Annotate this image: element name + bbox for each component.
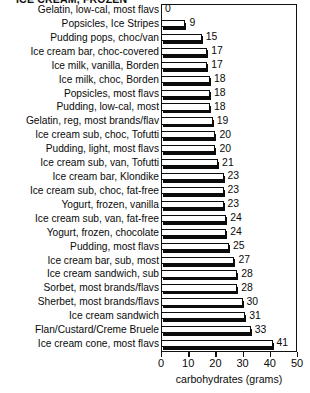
category-label: Pudding, low-cal, most (57, 101, 160, 113)
bar (161, 173, 224, 183)
category-label: Yogurt, frozen, chocolate (47, 227, 159, 239)
bar-row: Ice cream sub, choc, Tofutti20 (0, 129, 310, 143)
category-label: Popsicles, Ice Stripes (62, 18, 159, 30)
bar-value-label: 21 (222, 157, 234, 169)
bar-value-label: 20 (219, 143, 231, 155)
category-label: Ice cream sub, choc, Tofutti (35, 129, 159, 141)
bar-value-label: 27 (238, 254, 250, 266)
category-label: Gelatin, low-cal, most flavs (38, 4, 159, 16)
bar-rows-container: Gelatin, low-cal, most flavs0Popsicles, … (0, 4, 310, 352)
category-label: Ice cream bar, choc-covered (30, 46, 159, 58)
bar-value-label: 17 (211, 45, 223, 57)
x-tick-label: 40 (264, 357, 276, 370)
category-label: Sorbet, most brands/flavs (43, 282, 159, 294)
bar-body (161, 145, 215, 152)
bar-value-label: 25 (233, 240, 245, 252)
category-label: Ice milk, choc, Borden (59, 74, 159, 86)
bar-value-label: 9 (189, 17, 195, 29)
bar-row: Yogurt, frozen, vanilla23 (0, 199, 310, 213)
bar-row: Ice cream sub, van, Tofutti21 (0, 157, 310, 171)
bar-body (161, 48, 207, 55)
bar-value-label: 24 (230, 226, 242, 238)
x-tick-label: 0 (158, 357, 164, 370)
bar (161, 103, 210, 113)
bar-body (161, 131, 215, 138)
bar-row: Ice cream sandwich, sub28 (0, 268, 310, 282)
bar-row: Sorbet, most brands/flavs28 (0, 282, 310, 296)
category-label: Ice cream sandwich (69, 310, 159, 322)
bar (161, 326, 251, 336)
bar-row: Yogurt, frozen, chocolate24 (0, 227, 310, 241)
bar-body (161, 270, 237, 277)
bar (161, 131, 215, 141)
x-tick-mark (188, 352, 189, 357)
bar-value-label: 0 (165, 3, 171, 15)
bar-body (161, 103, 210, 110)
bar-row: Gelatin, reg, most brands/flav19 (0, 115, 310, 129)
bar (161, 117, 213, 127)
category-label: Ice cream sandwich, sub (47, 268, 159, 280)
category-label: Ice cream cone, most flavs (38, 338, 159, 350)
bar-row: Ice cream cone, most flavs41 (0, 338, 310, 352)
bar-body (161, 326, 251, 333)
bar-value-label: 17 (211, 59, 223, 71)
bar-value-label: 19 (217, 115, 229, 127)
x-tick-mark (297, 352, 298, 357)
bar-row: Ice cream bar, Klondike23 (0, 171, 310, 185)
x-tick-mark (270, 352, 271, 357)
category-label: Ice cream sub, van, Tofutti (40, 157, 159, 169)
bar-row: Pudding, low-cal, most18 (0, 101, 310, 115)
bar-row: Popsicles, most flavs18 (0, 88, 310, 102)
bar (161, 6, 162, 16)
bar-row: Pudding pops, choc/van15 (0, 32, 310, 46)
category-label: Flan/Custard/Creme Bruele (35, 324, 159, 336)
bar-row: Flan/Custard/Creme Bruele33 (0, 324, 310, 338)
bar-body (161, 340, 273, 347)
category-label: Yogurt, frozen, vanilla (61, 199, 159, 211)
bar (161, 270, 237, 280)
bar (161, 90, 210, 100)
bar (161, 243, 229, 253)
bar-value-label: 18 (214, 87, 226, 99)
bar-body (161, 215, 226, 222)
bar-row: Popsicles, Ice Stripes9 (0, 18, 310, 32)
bar-value-label: 15 (206, 31, 218, 43)
bar (161, 145, 215, 155)
bar-value-label: 28 (241, 268, 253, 280)
bar (161, 340, 273, 350)
bar-value-label: 41 (277, 337, 289, 349)
bar (161, 159, 218, 169)
bar (161, 201, 224, 211)
bar (161, 229, 226, 239)
bar (161, 257, 234, 267)
category-label: Ice cream sub, van, fat-free (35, 213, 159, 225)
bar-body (161, 298, 243, 305)
category-label: Gelatin, reg, most brands/flav (26, 115, 159, 127)
bar-body (161, 312, 245, 319)
bar-value-label: 23 (228, 170, 240, 182)
bar-body (161, 284, 237, 291)
bar-body (161, 20, 185, 27)
bar-value-label: 33 (255, 324, 267, 336)
category-label: Ice milk, vanilla, Borden (51, 60, 159, 72)
bar-row: Ice cream bar, choc-covered17 (0, 46, 310, 60)
x-tick-label: 20 (209, 357, 221, 370)
bar-value-label: 20 (219, 129, 231, 141)
category-label: Popsicles, most flavs (64, 88, 159, 100)
category-label: Ice cream bar, sub, most (47, 255, 159, 267)
x-tick-mark (215, 352, 216, 357)
x-tick-label: 30 (236, 357, 248, 370)
bar (161, 20, 185, 30)
category-label: Pudding pops, choc/van (50, 32, 159, 44)
bar-body (161, 90, 210, 97)
category-label: Ice cream sub, choc, fat-free (30, 185, 159, 197)
bar (161, 76, 210, 86)
category-label: Pudding, light, most flavs (46, 143, 159, 155)
bar-value-label: 24 (230, 212, 242, 224)
bar-row: Ice cream sub, choc, fat-free23 (0, 185, 310, 199)
category-label: Pudding, most flavs (70, 241, 159, 253)
bar-value-label: 31 (249, 310, 261, 322)
bar-row: Pudding, most flavs25 (0, 241, 310, 255)
bar-body (161, 243, 229, 250)
bar-value-label: 23 (228, 198, 240, 210)
